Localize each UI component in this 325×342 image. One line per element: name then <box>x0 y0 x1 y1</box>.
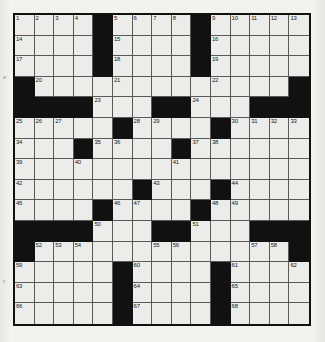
grid-cell[interactable] <box>54 200 74 221</box>
grid-cell[interactable] <box>172 200 192 221</box>
grid-cell[interactable] <box>113 242 133 263</box>
grid-cell[interactable]: 32 <box>270 118 290 139</box>
grid-cell[interactable]: 50 <box>93 221 113 242</box>
grid-cell[interactable]: 30 <box>231 118 251 139</box>
grid-cell[interactable]: 33 <box>289 118 309 139</box>
grid-cell[interactable]: 34 <box>15 139 35 160</box>
grid-cell[interactable]: 51 <box>191 221 211 242</box>
grid-cell[interactable] <box>93 283 113 304</box>
grid-cell[interactable]: 45 <box>15 200 35 221</box>
grid-cell[interactable] <box>211 242 231 263</box>
grid-cell[interactable] <box>133 36 153 57</box>
grid-cell[interactable] <box>211 221 231 242</box>
grid-cell[interactable] <box>35 159 55 180</box>
grid-cell[interactable] <box>172 36 192 57</box>
grid-cell[interactable]: 1 <box>15 15 35 36</box>
grid-cell[interactable] <box>152 262 172 283</box>
grid-cell[interactable] <box>54 180 74 201</box>
grid-cell[interactable]: 28 <box>133 118 153 139</box>
grid-cell[interactable] <box>152 283 172 304</box>
grid-cell[interactable]: 40 <box>74 159 94 180</box>
grid-cell[interactable] <box>93 118 113 139</box>
grid-cell[interactable]: 48 <box>211 200 231 221</box>
grid-cell[interactable]: 26 <box>35 118 55 139</box>
grid-cell[interactable] <box>74 118 94 139</box>
grid-cell[interactable] <box>191 283 211 304</box>
grid-cell[interactable] <box>270 139 290 160</box>
grid-cell[interactable]: 42 <box>15 180 35 201</box>
grid-cell[interactable] <box>35 56 55 77</box>
grid-cell[interactable] <box>250 56 270 77</box>
grid-cell[interactable] <box>93 180 113 201</box>
grid-cell[interactable] <box>231 221 251 242</box>
grid-cell[interactable] <box>250 36 270 57</box>
grid-cell[interactable]: 13 <box>289 15 309 36</box>
grid-cell[interactable] <box>93 159 113 180</box>
grid-cell[interactable] <box>152 200 172 221</box>
grid-cell[interactable] <box>35 283 55 304</box>
grid-cell[interactable] <box>270 77 290 98</box>
grid-cell[interactable] <box>289 36 309 57</box>
grid-cell[interactable] <box>289 56 309 77</box>
grid-cell[interactable]: 59 <box>15 262 35 283</box>
grid-cell[interactable]: 35 <box>93 139 113 160</box>
grid-cell[interactable] <box>270 36 290 57</box>
grid-cell[interactable] <box>54 139 74 160</box>
grid-cell[interactable] <box>231 36 251 57</box>
grid-cell[interactable] <box>35 180 55 201</box>
grid-cell[interactable] <box>74 283 94 304</box>
grid-cell[interactable] <box>250 303 270 324</box>
grid-cell[interactable] <box>191 180 211 201</box>
grid-cell[interactable]: 39 <box>15 159 35 180</box>
grid-cell[interactable]: 4 <box>74 15 94 36</box>
grid-cell[interactable]: 67 <box>133 303 153 324</box>
grid-cell[interactable] <box>93 77 113 98</box>
grid-cell[interactable] <box>133 159 153 180</box>
grid-cell[interactable] <box>172 283 192 304</box>
grid-cell[interactable] <box>289 139 309 160</box>
grid-cell[interactable] <box>250 200 270 221</box>
grid-cell[interactable] <box>152 36 172 57</box>
grid-cell[interactable]: 61 <box>231 262 251 283</box>
grid-cell[interactable]: 5 <box>113 15 133 36</box>
grid-cell[interactable]: 43 <box>152 180 172 201</box>
grid-cell[interactable] <box>113 97 133 118</box>
grid-cell[interactable]: 60 <box>133 262 153 283</box>
grid-cell[interactable] <box>93 303 113 324</box>
grid-cell[interactable]: 41 <box>172 159 192 180</box>
grid-cell[interactable]: 20 <box>35 77 55 98</box>
grid-cell[interactable] <box>172 262 192 283</box>
grid-cell[interactable]: 3 <box>54 15 74 36</box>
grid-cell[interactable] <box>250 262 270 283</box>
grid-cell[interactable] <box>113 221 133 242</box>
grid-cell[interactable] <box>289 180 309 201</box>
grid-cell[interactable] <box>35 303 55 324</box>
grid-cell[interactable] <box>191 159 211 180</box>
grid-cell[interactable] <box>250 159 270 180</box>
grid-cell[interactable]: 22 <box>211 77 231 98</box>
grid-cell[interactable]: 16 <box>211 36 231 57</box>
grid-cell[interactable] <box>74 56 94 77</box>
grid-cell[interactable] <box>270 56 290 77</box>
grid-cell[interactable] <box>231 97 251 118</box>
grid-cell[interactable] <box>191 262 211 283</box>
grid-cell[interactable]: 7 <box>152 15 172 36</box>
grid-cell[interactable] <box>35 262 55 283</box>
grid-cell[interactable] <box>113 159 133 180</box>
grid-cell[interactable]: 11 <box>250 15 270 36</box>
grid-cell[interactable]: 31 <box>250 118 270 139</box>
grid-cell[interactable]: 63 <box>15 283 35 304</box>
grid-cell[interactable] <box>152 56 172 77</box>
grid-cell[interactable] <box>152 159 172 180</box>
grid-cell[interactable]: 58 <box>270 242 290 263</box>
grid-cell[interactable] <box>93 242 113 263</box>
grid-cell[interactable] <box>270 180 290 201</box>
grid-cell[interactable] <box>231 139 251 160</box>
grid-cell[interactable] <box>231 77 251 98</box>
grid-cell[interactable] <box>152 303 172 324</box>
grid-cell[interactable]: 6 <box>133 15 153 36</box>
grid-cell[interactable] <box>74 180 94 201</box>
grid-cell[interactable] <box>54 283 74 304</box>
grid-cell[interactable]: 21 <box>113 77 133 98</box>
grid-cell[interactable]: 65 <box>231 283 251 304</box>
